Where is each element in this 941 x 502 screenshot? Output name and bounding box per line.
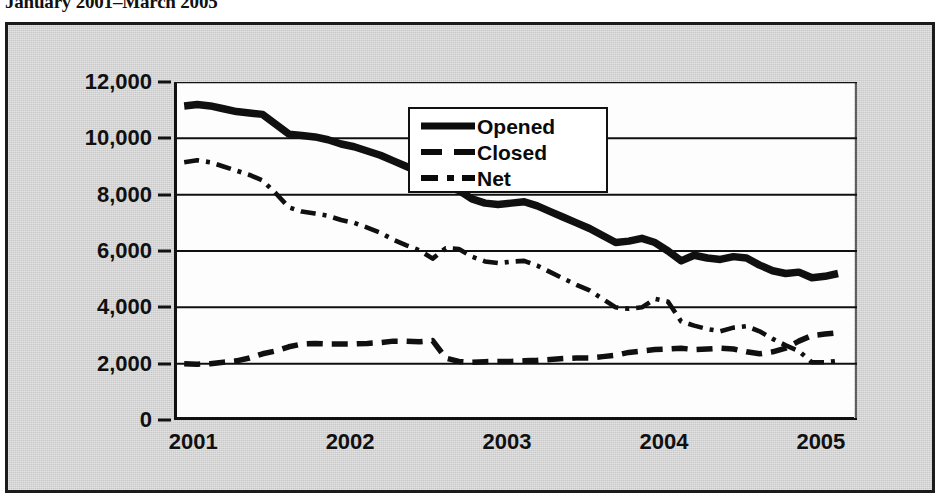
dash-dot-line-swatch-icon [419, 168, 477, 188]
chart-frame: 12,00010,0008,0006,0004,0002,0000 200120… [5, 22, 935, 493]
x-axis-tick-label: 2002 [326, 429, 375, 455]
y-axis-labels: 12,00010,0008,0006,0004,0002,0000 [28, 82, 152, 420]
y-axis-tick-mark [158, 193, 171, 196]
legend-item-net: Net [410, 165, 606, 191]
legend-label-net: Net [477, 168, 511, 189]
solid-line-swatch-icon [419, 116, 477, 136]
legend-label-opened: Opened [477, 116, 555, 137]
y-axis-tick-label: 8,000 [32, 182, 152, 208]
legend-label-closed: Closed [477, 142, 547, 163]
legend-item-opened: Opened [410, 113, 606, 139]
x-axis-tick-label: 2003 [483, 429, 532, 455]
y-axis-tick-label: 12,000 [32, 69, 152, 95]
y-axis-tick-label: 10,000 [32, 125, 152, 151]
y-axis-tick-mark [158, 137, 171, 140]
y-axis-tick-mark [158, 419, 171, 422]
dashed-line-swatch-icon [419, 142, 477, 162]
chart-legend: Opened Closed Net [408, 107, 608, 193]
y-axis-tick-label: 0 [32, 407, 152, 433]
x-axis-tick-label: 2004 [639, 429, 688, 455]
y-axis-tick-mark [158, 362, 171, 365]
page-title: January 2001–March 2005 [5, 0, 705, 13]
series-line-closed [184, 333, 838, 365]
x-axis-tick-label: 2001 [169, 429, 218, 455]
legend-item-closed: Closed [410, 139, 606, 165]
x-axis-tick-label: 2005 [796, 429, 845, 455]
y-axis-tick-mark [158, 81, 171, 84]
y-axis-tick-label: 6,000 [32, 238, 152, 264]
x-axis-labels: 20012002200320042005 [174, 429, 874, 469]
y-axis-tick-mark [158, 250, 171, 253]
y-axis-tick-label: 4,000 [32, 294, 152, 320]
y-axis-tick-label: 2,000 [32, 351, 152, 377]
y-axis-tick-mark [158, 306, 171, 309]
